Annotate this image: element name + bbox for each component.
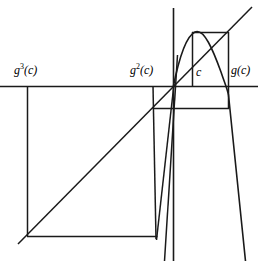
cobweb-figure: g3(c) g2(c) c g(c) bbox=[0, 0, 258, 261]
identity-line bbox=[18, 7, 252, 244]
label-c-base: c bbox=[196, 65, 201, 79]
label-g3c-arg: (c) bbox=[24, 63, 37, 77]
figure-canvas bbox=[0, 0, 258, 261]
label-gc: g(c) bbox=[231, 64, 250, 76]
label-g3c: g3(c) bbox=[14, 64, 37, 76]
label-c: c bbox=[196, 66, 201, 78]
label-g2c: g2(c) bbox=[130, 64, 153, 76]
label-g2c-arg: (c) bbox=[140, 63, 153, 77]
label-gc-arg: (c) bbox=[237, 63, 250, 77]
